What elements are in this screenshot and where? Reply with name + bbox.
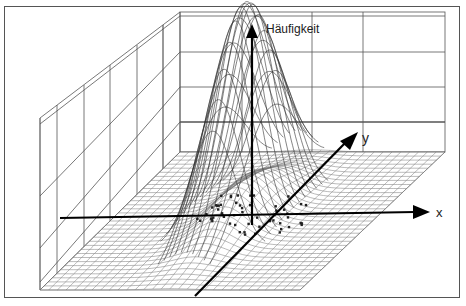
surface-plot	[0, 0, 466, 306]
z-axis-label: Häufigkeit	[266, 22, 319, 36]
y-axis-label: y	[362, 130, 369, 146]
x-axis-label: x	[436, 205, 443, 220]
